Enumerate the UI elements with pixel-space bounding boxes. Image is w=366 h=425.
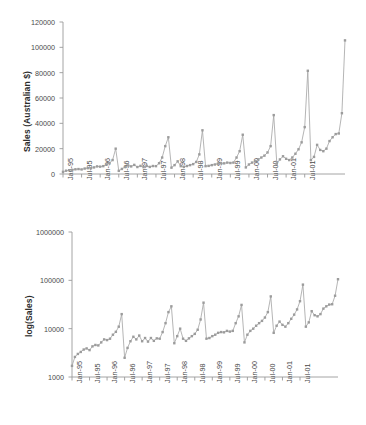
data-point-marker: [120, 313, 122, 315]
data-point-marker: [226, 330, 228, 332]
data-point-marker: [243, 341, 245, 343]
data-point-marker: [142, 166, 144, 168]
data-point-marker: [87, 167, 89, 169]
data-point-marker: [223, 162, 225, 164]
data-point-marker: [242, 134, 244, 136]
data-point-marker: [158, 338, 160, 340]
sales-figure: Sales (Australian $) 0200004000060000800…: [0, 0, 366, 425]
data-point-marker: [322, 307, 324, 309]
data-point-marker: [229, 330, 231, 332]
data-point-marker: [97, 344, 99, 346]
data-point-marker: [337, 278, 339, 280]
data-point-marker: [316, 315, 318, 317]
data-point-marker: [285, 158, 287, 160]
data-point-marker: [328, 140, 330, 142]
data-point-marker: [201, 129, 203, 131]
data-point-marker: [257, 158, 259, 160]
data-point-marker: [147, 340, 149, 342]
data-point-marker: [152, 165, 154, 167]
data-point-marker: [226, 161, 228, 163]
data-point-marker: [155, 165, 157, 167]
data-point-marker: [192, 163, 194, 165]
data-point-marker: [139, 165, 141, 167]
data-point-marker: [82, 348, 84, 350]
data-point-marker: [111, 159, 113, 161]
data-point-marker: [180, 165, 182, 167]
data-point-marker: [264, 316, 266, 318]
data-point-marker: [275, 325, 277, 327]
data-point-marker: [195, 161, 197, 163]
data-point-marker: [114, 147, 116, 149]
data-point-marker: [220, 331, 222, 333]
data-point-marker: [186, 165, 188, 167]
linear-chart-svg: [57, 19, 353, 177]
data-point-marker: [118, 170, 120, 172]
data-point-marker: [126, 347, 128, 349]
data-point-marker: [164, 145, 166, 147]
data-point-marker: [74, 356, 76, 358]
data-point-marker: [211, 335, 213, 337]
data-point-marker: [133, 164, 135, 166]
data-point-marker: [266, 151, 268, 153]
data-point-marker: [223, 331, 225, 333]
data-point-marker: [80, 351, 82, 353]
data-point-marker: [161, 156, 163, 158]
data-point-marker: [205, 338, 207, 340]
data-point-marker: [207, 165, 209, 167]
data-point-marker: [260, 156, 262, 158]
data-point-marker: [211, 164, 213, 166]
data-point-marker: [182, 338, 184, 340]
data-point-marker: [170, 166, 172, 168]
data-point-marker: [322, 150, 324, 152]
data-point-marker: [273, 114, 275, 116]
data-point-marker: [83, 167, 85, 169]
y-tick-label: 1000: [18, 373, 64, 382]
data-point-marker: [341, 112, 343, 114]
plot-area-linear: 020000400006000080000100000120000Jan-95J…: [63, 22, 345, 174]
data-point-marker: [220, 162, 222, 164]
data-point-marker: [167, 311, 169, 313]
y-tick-label: 10000: [18, 324, 64, 333]
y-tick-label: 120000: [9, 18, 55, 27]
data-point-marker: [105, 163, 107, 165]
data-point-marker: [149, 166, 151, 168]
data-point-marker: [214, 334, 216, 336]
data-point-marker: [237, 315, 239, 317]
data-point-marker: [246, 334, 248, 336]
data-point-marker: [167, 136, 169, 138]
data-point-marker: [198, 153, 200, 155]
chart-panel-linear: Sales (Australian $) 0200004000060000800…: [0, 0, 366, 212]
data-point-marker: [179, 327, 181, 329]
data-point-marker: [334, 295, 336, 297]
data-point-marker: [150, 337, 152, 339]
data-point-marker: [65, 170, 67, 172]
data-point-marker: [252, 327, 254, 329]
data-point-marker: [272, 332, 274, 334]
series-line: [63, 40, 345, 171]
data-point-marker: [328, 303, 330, 305]
y-axis-title-top: Sales (Australian $): [22, 71, 32, 152]
data-point-marker: [62, 171, 64, 173]
data-point-marker: [267, 311, 269, 313]
data-point-marker: [325, 147, 327, 149]
data-point-marker: [278, 320, 280, 322]
data-point-marker: [319, 313, 321, 315]
data-point-marker: [90, 167, 92, 169]
data-point-marker: [299, 300, 301, 302]
data-point-marker: [234, 322, 236, 324]
data-point-marker: [304, 126, 306, 128]
data-point-marker: [248, 163, 250, 165]
data-point-marker: [214, 163, 216, 165]
series-line: [72, 279, 338, 366]
y-tick-label: 1000000: [18, 228, 64, 237]
data-point-marker: [145, 165, 147, 167]
data-point-marker: [217, 162, 219, 164]
data-point-marker: [204, 165, 206, 167]
data-point-marker: [331, 303, 333, 305]
data-point-marker: [310, 310, 312, 312]
data-point-marker: [331, 136, 333, 138]
y-tick-label: 80000: [9, 68, 55, 77]
plot-area-log: 1000100001000001000000Jan-95Jul-95Jan-96…: [72, 232, 338, 377]
data-point-marker: [91, 345, 93, 347]
data-point-marker: [99, 165, 101, 167]
